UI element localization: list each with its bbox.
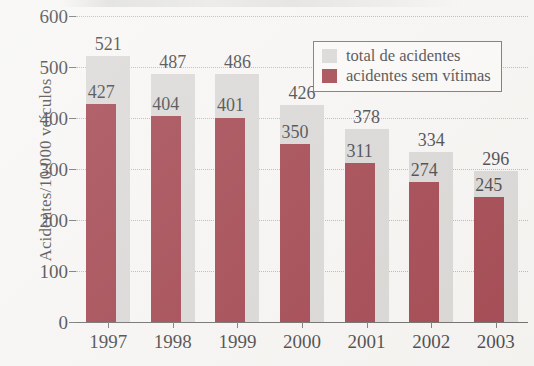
bar-acidentes-sem-vitimas [86, 104, 116, 322]
y-axis-tick-mark [69, 118, 76, 119]
y-axis-tick-mark [69, 169, 76, 170]
x-axis-tick-label: 1997 [82, 332, 134, 351]
data-label-sem-vitimas: 274 [402, 161, 446, 179]
x-axis-tick-label: 2000 [276, 332, 328, 351]
y-axis-tick-label: 300 [22, 160, 68, 179]
data-label-sem-vitimas: 401 [208, 96, 252, 114]
y-axis-tick-mark [69, 322, 76, 323]
x-axis-tick-label: 2002 [405, 332, 457, 351]
data-label-sem-vitimas: 427 [79, 83, 123, 101]
data-label-sem-vitimas: 245 [467, 176, 511, 194]
data-label-total: 487 [151, 53, 195, 71]
x-axis-tick-labels: 1997199819992000200120022003 [76, 332, 528, 362]
legend-label: acidentes sem vítimas [346, 68, 491, 85]
x-axis-tick-label: 2003 [470, 332, 522, 351]
data-label-sem-vitimas: 350 [273, 123, 317, 141]
data-label-sem-vitimas: 404 [144, 95, 188, 113]
y-axis-tick-labels: 0100200300400500600 [22, 0, 68, 366]
y-axis-tick-label: 100 [22, 262, 68, 281]
y-axis-tick-mark [69, 16, 76, 17]
y-axis-tick-label: 400 [22, 109, 68, 128]
x-axis-tick-label: 1998 [147, 332, 199, 351]
x-axis-tick-mark [431, 322, 432, 328]
x-axis-tick-mark [108, 322, 109, 328]
y-axis-tick-label: 600 [22, 7, 68, 26]
legend-swatch-icon [322, 69, 337, 83]
bar-chart: Acidentes/10.000 veículos 01002003004005… [0, 0, 534, 366]
data-label-sem-vitimas: 311 [338, 142, 382, 160]
x-axis-tick-label: 1999 [211, 332, 263, 351]
legend-item[interactable]: total de acidentes [322, 46, 491, 66]
x-axis-tick-label: 2001 [341, 332, 393, 351]
legend-swatch-icon [322, 49, 337, 63]
bar-acidentes-sem-vitimas [280, 144, 310, 323]
scan-artifact [60, 0, 460, 7]
x-axis-tick-mark [367, 322, 368, 328]
data-label-total: 521 [86, 35, 130, 53]
y-axis-tick-label: 200 [22, 211, 68, 230]
y-axis-tick-mark [69, 67, 76, 68]
y-axis-tick-label: 500 [22, 58, 68, 77]
x-axis-tick-mark [173, 322, 174, 328]
bar-acidentes-sem-vitimas [409, 182, 439, 322]
x-axis-tick-mark [496, 322, 497, 328]
gridline [76, 16, 528, 17]
bar-group [86, 16, 130, 322]
bar-acidentes-sem-vitimas [474, 197, 504, 322]
y-axis-tick-label: 0 [22, 313, 68, 332]
y-axis-tick-mark [69, 271, 76, 272]
legend-item[interactable]: acidentes sem vítimas [322, 66, 491, 86]
y-axis-tick-mark [69, 220, 76, 221]
bar-acidentes-sem-vitimas [345, 163, 375, 322]
x-axis-tick-mark [302, 322, 303, 328]
data-label-total: 334 [409, 131, 453, 149]
bar-acidentes-sem-vitimas [151, 116, 181, 322]
x-axis-tick-mark [237, 322, 238, 328]
bar-acidentes-sem-vitimas [215, 118, 245, 323]
chart-legend: total de acidentesacidentes sem vítimas [313, 41, 502, 92]
legend-label: total de acidentes [346, 48, 461, 65]
data-label-total: 296 [474, 150, 518, 168]
data-label-total: 486 [215, 53, 259, 71]
data-label-total: 378 [345, 108, 389, 126]
